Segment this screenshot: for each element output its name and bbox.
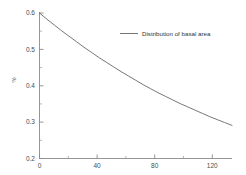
- y-tick-label-4: 0.6: [26, 9, 35, 16]
- x-tick-label-0: 0: [38, 162, 42, 169]
- legend-label-distribution-of-basal-area: Distribution of basal area: [142, 30, 211, 37]
- chart-container: 0.2 0.3 0.4 0.5 0.6 0 40 80 120 % Distri…: [0, 0, 246, 175]
- x-tick-label-3: 120: [207, 162, 218, 169]
- y-tick-label-1: 0.3: [26, 118, 35, 125]
- x-tick-label-2: 80: [151, 162, 159, 169]
- x-tick-label-1: 40: [93, 162, 101, 169]
- y-tick-label-0: 0.2: [26, 155, 35, 162]
- y-tick-label-3: 0.5: [26, 46, 35, 53]
- y-axis-title: %: [10, 77, 18, 83]
- chart-plot-area: 0.2 0.3 0.4 0.5 0.6 0 40 80 120 % Distri…: [0, 0, 246, 175]
- chart-legend: Distribution of basal area: [120, 30, 211, 37]
- y-tick-label-2: 0.4: [26, 82, 35, 89]
